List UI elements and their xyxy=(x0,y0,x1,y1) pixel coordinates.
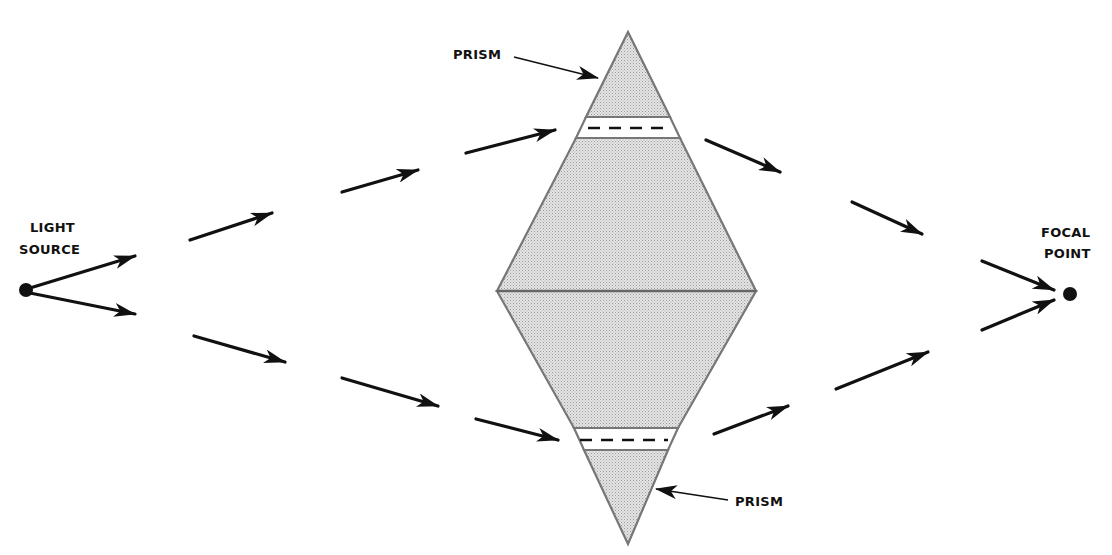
light-source-dot xyxy=(19,283,33,297)
prism-bottom-pointer xyxy=(656,489,728,500)
focal-point-label-line2: POINT xyxy=(1044,246,1091,261)
prism-bottom-tip xyxy=(584,450,668,544)
ray-arrow xyxy=(706,140,780,172)
ray-arrow xyxy=(982,300,1054,330)
light-source-label-line2: SOURCE xyxy=(19,242,80,257)
ray-arrow xyxy=(194,336,285,362)
focal-point-label-line1: FOCAL xyxy=(1041,225,1090,240)
prism-lower-half xyxy=(497,291,756,428)
ray-arrow xyxy=(836,352,928,389)
ray-arrow xyxy=(342,378,438,406)
ray-arrow xyxy=(982,261,1054,290)
prism-top-label: PRISM xyxy=(453,47,501,62)
prism-upper-half xyxy=(497,138,756,291)
ray-arrow xyxy=(476,419,558,440)
prism-top-pointer xyxy=(514,57,598,78)
prism-assembly xyxy=(497,32,756,544)
prism-top-tip xyxy=(586,32,670,117)
ray-arrow xyxy=(342,170,418,192)
focal-point-dot xyxy=(1063,287,1077,301)
ray-arrow xyxy=(30,256,135,288)
ray-arrow xyxy=(852,202,922,234)
ray-arrow xyxy=(466,130,555,153)
ray-arrow xyxy=(190,213,272,240)
prism-bottom-label: PRISM xyxy=(735,494,783,509)
light-source-label-line1: LIGHT xyxy=(30,220,75,235)
ray-arrow xyxy=(714,406,788,434)
ray-arrow xyxy=(30,293,135,314)
prism-diagram: LIGHT SOURCE FOCAL POINT PRISM PRISM xyxy=(0,0,1112,555)
